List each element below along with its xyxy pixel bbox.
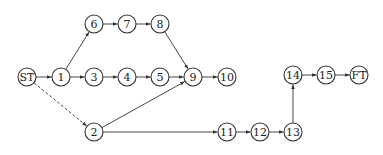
node-3: 3 — [85, 68, 103, 86]
node-label: 3 — [91, 71, 98, 84]
node-FT: FT — [350, 66, 368, 84]
nodes-layer: ST123456789101112131415FT — [18, 15, 368, 141]
node-label: 8 — [157, 18, 164, 31]
node-1: 1 — [52, 68, 70, 86]
node-label: 2 — [91, 126, 98, 139]
node-label: 5 — [157, 71, 164, 84]
node-label: 4 — [124, 71, 131, 84]
network-diagram-canvas: ST123456789101112131415FT — [0, 0, 383, 155]
node-7: 7 — [118, 15, 136, 33]
node-label: 14 — [286, 69, 300, 82]
node-4: 4 — [118, 68, 136, 86]
node-ST: ST — [18, 68, 36, 86]
node-9: 9 — [184, 68, 202, 86]
network-diagram: ST123456789101112131415FT — [0, 0, 383, 155]
node-label: 10 — [220, 71, 234, 84]
node-label: FT — [352, 69, 368, 82]
node-12: 12 — [251, 123, 269, 141]
node-label: 7 — [124, 18, 131, 31]
node-11: 11 — [218, 123, 236, 141]
node-label: 12 — [253, 126, 267, 139]
node-label: ST — [20, 71, 36, 84]
edge-ST-to-2-arrow — [34, 83, 87, 126]
node-15: 15 — [317, 66, 335, 84]
node-5: 5 — [151, 68, 169, 86]
node-8: 8 — [151, 15, 169, 33]
node-label: 6 — [91, 18, 98, 31]
edge-8-to-9-arrow — [165, 32, 188, 69]
node-6: 6 — [85, 15, 103, 33]
edge-1-to-6-arrow — [66, 32, 89, 69]
edge-2-to-9-arrow — [102, 82, 185, 128]
node-2: 2 — [85, 123, 103, 141]
node-label: 11 — [220, 126, 234, 139]
node-label: 15 — [319, 69, 333, 82]
node-label: 1 — [58, 71, 65, 84]
node-label: 13 — [286, 126, 300, 139]
node-label: 9 — [190, 71, 197, 84]
node-13: 13 — [284, 123, 302, 141]
node-14: 14 — [284, 66, 302, 84]
node-10: 10 — [218, 68, 236, 86]
